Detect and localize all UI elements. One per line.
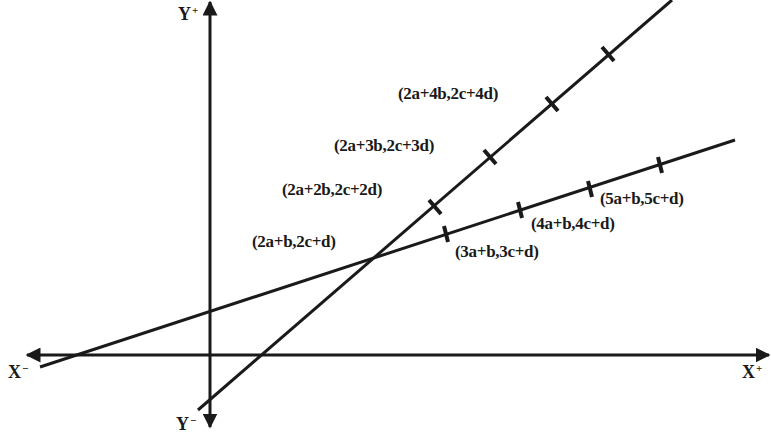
shallow-point-label: (5a+b,5c+d) <box>600 189 684 209</box>
shallow-line <box>40 140 735 367</box>
axis-letter: X <box>742 362 755 382</box>
axis-sign: − <box>190 414 196 426</box>
tick-mark <box>588 181 592 197</box>
steep-point-label: (2a+4b,2c+4d) <box>398 84 498 104</box>
x-positive-label: X+ <box>742 362 762 383</box>
axis-letter: X <box>8 362 21 382</box>
coordinate-diagram <box>0 0 771 439</box>
axis-sign: + <box>756 362 762 374</box>
y-negative-label: Y− <box>176 414 196 435</box>
axis-letter: Y <box>176 414 189 434</box>
steep-point-label: (2a+2b,2c+2d) <box>282 180 382 200</box>
intersection-label: (2a+b,2c+d) <box>252 232 336 252</box>
tick-mark <box>444 226 448 242</box>
steep-point-label: (2a+3b,2c+3d) <box>334 136 434 156</box>
y-positive-label: Y+ <box>178 4 198 25</box>
axis-letter: Y <box>178 4 191 24</box>
tick-mark <box>658 157 662 173</box>
x-negative-label: X− <box>8 362 28 383</box>
shallow-point-label: (4a+b,4c+d) <box>531 214 615 234</box>
tick-mark <box>518 202 522 218</box>
shallow-point-label: (3a+b,3c+d) <box>455 242 539 262</box>
axis-sign: + <box>192 4 198 16</box>
axis-sign: − <box>22 362 28 374</box>
